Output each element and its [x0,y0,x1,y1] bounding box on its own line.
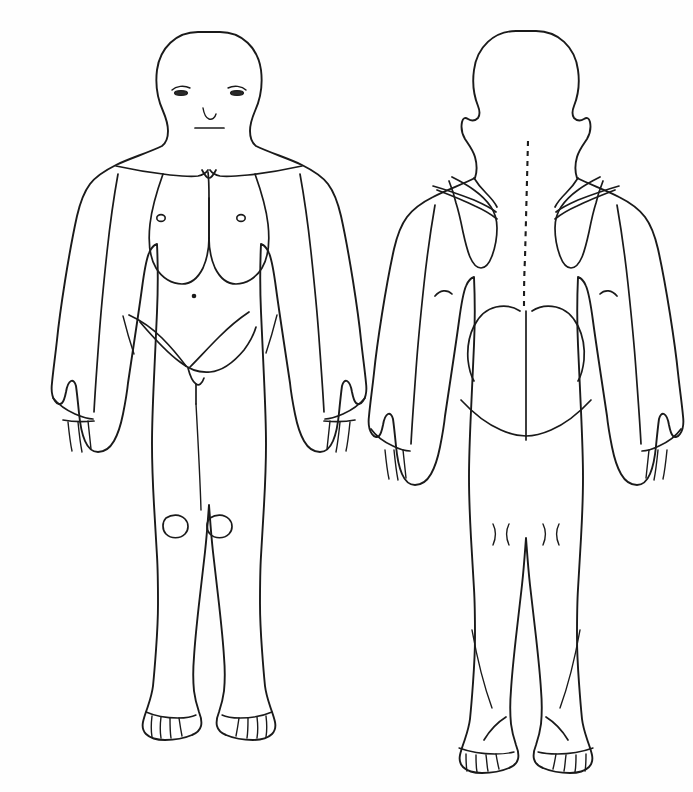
figure-posterior[interactable] [369,31,684,773]
anterior-hand-left-finger-1 [68,422,72,451]
anterior-hand-right-finger-1 [346,422,350,451]
anterior-foot-left-toe-1 [151,716,152,737]
anterior-hip-line-right [266,315,277,353]
anterior-foot-right-toe-1 [266,716,267,737]
anterior-eye-right [231,91,244,96]
body-chart-canvas[interactable] [0,0,693,792]
anterior-foot-right-toe-2 [257,717,258,738]
posterior-hand-right-finger-1 [663,450,667,479]
body-chart-page: Body Chart [0,0,693,792]
anterior-nipple-left [157,215,165,222]
figure-anterior[interactable] [52,32,367,740]
anterior-eye-left [175,91,188,96]
posterior-hand-left-finger-1 [385,450,389,479]
anterior-foot-left-toe-2 [160,717,161,738]
anterior-nipple-right [237,215,245,222]
anterior-body-outline[interactable] [52,32,367,740]
anterior-navel [192,294,197,299]
